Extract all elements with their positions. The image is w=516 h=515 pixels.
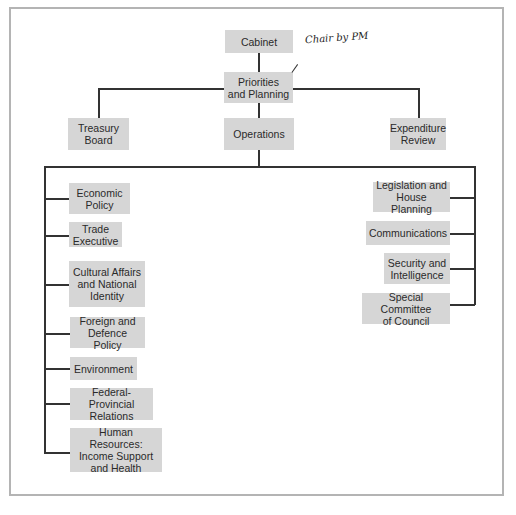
box-communications: Communications (366, 221, 450, 245)
connector-priorities-operations (258, 103, 260, 118)
connector-left-5 (44, 368, 70, 370)
connector-left-spine (44, 166, 46, 453)
box-trade-executive: Trade Executive (69, 222, 122, 247)
connector-right-2 (450, 233, 475, 235)
connector-expenditure (418, 88, 420, 118)
box-environment: Environment (70, 357, 137, 380)
connector-treasury (98, 88, 100, 118)
box-economic-policy: Economic Policy (69, 183, 130, 214)
box-cabinet: Cabinet (225, 30, 293, 53)
box-human-resources: Human Resources: Income Support and Heal… (70, 428, 162, 472)
box-security-intelligence: Security and Intelligence (384, 253, 450, 284)
box-treasury-board: Treasury Board (68, 118, 129, 150)
connector-right-3 (450, 268, 475, 270)
connector-right-spine (474, 166, 476, 305)
box-special-committee: Special Committee of Council (362, 293, 450, 324)
connector-left-1 (44, 198, 69, 200)
box-federal-provincial: Federal-Provincial Relations (70, 388, 153, 420)
connector-left-3 (44, 284, 69, 286)
connector-right-4 (450, 304, 475, 306)
box-cultural-affairs: Cultural Affairs and National Identity (69, 261, 145, 307)
connector-left-7 (44, 452, 70, 454)
box-foreign-defence-policy: Foreign and Defence Policy (70, 317, 145, 348)
connector-left-6 (44, 403, 70, 405)
connector-left-2 (44, 235, 69, 237)
box-priorities-and-planning: Priorities and Planning (224, 72, 293, 103)
box-operations: Operations (224, 118, 294, 150)
connector-operations-down (258, 150, 260, 167)
connector-committees-horizontal (44, 166, 475, 168)
box-legislation-house-planning: Legislation and House Planning (373, 182, 450, 212)
connector-left-4 (44, 333, 70, 335)
box-expenditure-review: Expenditure Review (390, 118, 446, 150)
connector-cabinet-priorities (258, 53, 260, 72)
connector-right-1 (450, 197, 475, 199)
